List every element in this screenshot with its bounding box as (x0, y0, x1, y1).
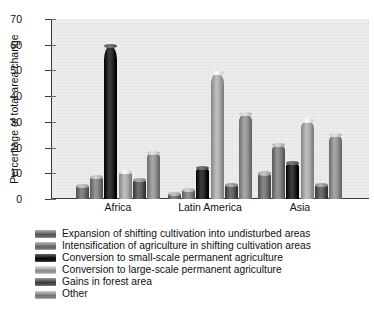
bar-group-latin-america (168, 19, 252, 199)
bar-top-ellipse (329, 133, 342, 137)
bar-chart-figure: Percentage of total area change AfricaLa… (0, 0, 374, 318)
bar (196, 168, 209, 199)
bar-top-ellipse (168, 192, 181, 196)
y-tick-inner-70 (51, 19, 56, 20)
legend-label: Intensification of agriculture in shifti… (62, 241, 311, 251)
legend-swatch (35, 242, 56, 250)
legend-item: Conversion to small-scale permanent agri… (35, 252, 370, 264)
legend-item: Other (35, 288, 370, 300)
y-tick-label-10: 10 (0, 168, 22, 179)
bar-top-ellipse (104, 44, 117, 48)
bar (301, 121, 314, 199)
legend-item: Gains in forest area (35, 276, 370, 288)
y-tick-inner-40 (51, 96, 56, 97)
bar (272, 145, 285, 199)
bar (286, 163, 299, 199)
bar (239, 114, 252, 199)
y-tick-label-70: 70 (0, 14, 22, 25)
bar-top-ellipse (239, 112, 252, 116)
y-axis-tick-labels: 010203040506070 (0, 19, 22, 199)
legend-label: Gains in forest area (62, 277, 152, 287)
plot-area: Percentage of total area change AfricaLa… (51, 19, 369, 199)
y-tick-label-40: 40 (0, 91, 22, 102)
legend-swatch (35, 230, 56, 238)
legend-item: Intensification of agriculture in shifti… (35, 240, 370, 252)
bar-top-ellipse (286, 161, 299, 165)
legend-item: Conversion to large-scale permanent agri… (35, 264, 370, 276)
legend-label: Conversion to small-scale permanent agri… (62, 253, 283, 263)
legend-label: Other (62, 289, 88, 299)
y-tick-label-50: 50 (0, 65, 22, 76)
bar-group-africa (76, 19, 160, 199)
bar-top-ellipse (133, 178, 146, 182)
bar-top-ellipse (76, 184, 89, 188)
bar-top-ellipse (211, 71, 224, 75)
legend-label: Conversion to large-scale permanent agri… (62, 265, 282, 275)
bar-top-ellipse (258, 171, 271, 175)
bar (211, 73, 224, 199)
legend-swatch (35, 291, 56, 299)
bar (225, 185, 238, 199)
x-axis-label-asia: Asia (240, 201, 360, 213)
y-tick-inner-30 (51, 122, 56, 123)
bar (76, 186, 89, 199)
bar-top-ellipse (272, 143, 285, 147)
legend-swatch (35, 254, 56, 262)
bar (258, 173, 271, 199)
y-tick-inner-20 (51, 148, 56, 149)
bar-group-asia (258, 19, 342, 199)
bar (119, 172, 132, 199)
y-tick-inner-10 (51, 173, 56, 174)
legend-swatch (35, 266, 56, 274)
bar-top-ellipse (182, 188, 195, 192)
bar (147, 153, 160, 199)
bar-top-ellipse (315, 183, 328, 187)
y-tick-inner-60 (51, 45, 56, 46)
y-tick-label-60: 60 (0, 40, 22, 51)
y-tick-inner-50 (51, 70, 56, 71)
y-tick-label-30: 30 (0, 117, 22, 128)
legend-swatch (35, 278, 56, 286)
bar (182, 190, 195, 199)
legend-label: Expansion of shifting cultivation into u… (62, 229, 310, 239)
y-tick-label-20: 20 (0, 143, 22, 154)
bar (133, 180, 146, 199)
bar-top-ellipse (196, 166, 209, 170)
bar-top-ellipse (119, 170, 132, 174)
y-tick-label-0: 0 (0, 194, 22, 205)
bar-top-ellipse (90, 175, 103, 179)
bar (168, 194, 181, 199)
bar (104, 46, 117, 199)
bar-top-ellipse (147, 151, 160, 155)
bar (315, 185, 328, 199)
legend-item: Expansion of shifting cultivation into u… (35, 228, 370, 240)
bar (329, 135, 342, 199)
bar (90, 177, 103, 199)
bar-top-ellipse (301, 118, 314, 122)
chart-legend: Expansion of shifting cultivation into u… (35, 228, 370, 301)
y-tick-inner-0 (51, 199, 56, 200)
bar-top-ellipse (225, 183, 238, 187)
